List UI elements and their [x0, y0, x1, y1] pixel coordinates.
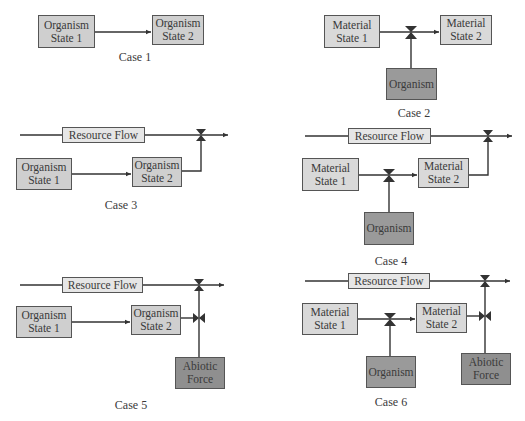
case1-organism-state-1: Organism State 1: [38, 15, 95, 48]
case5-resource-flow: Resource Flow: [62, 277, 143, 293]
case6-material-state-1: Material State 1: [302, 303, 358, 335]
case4-caption: Case 4: [375, 254, 407, 269]
case3-caption: Case 3: [105, 198, 137, 213]
case6-caption: Case 6: [375, 395, 407, 410]
case6-organism: Organism: [366, 356, 416, 388]
case4-resource-flow: Resource Flow: [348, 128, 431, 144]
case4-material-state-2: Material State 2: [418, 158, 469, 188]
case3-control-line: [182, 137, 201, 171]
case3-resource-flow: Resource Flow: [62, 127, 145, 143]
case5-caption: Case 5: [115, 398, 147, 413]
case2-organism: Organism: [386, 68, 437, 100]
ecological-flow-diagram: Organism State 1 Organism State 2 Case 1…: [0, 0, 525, 421]
case4-material-state-1: Material State 1: [302, 158, 359, 191]
case5-abiotic-force: Abiotic Force: [175, 357, 225, 389]
case5-organism-state-2: Organism State 2: [131, 305, 181, 335]
case2-material-state-1: Material State 1: [324, 15, 380, 48]
case6-abiotic-force: Abiotic Force: [461, 353, 511, 385]
case6-material-state-2: Material State 2: [416, 303, 467, 333]
case1-caption: Case 1: [119, 50, 151, 65]
case4-control-line: [469, 138, 488, 175]
case4-organism: Organism: [364, 212, 414, 245]
case6-resource-flow: Resource Flow: [348, 273, 430, 289]
case3-organism-state-2: Organism State 2: [132, 157, 182, 187]
case5-organism-state-1: Organism State 1: [16, 306, 72, 338]
case2-material-state-2: Material State 2: [440, 15, 492, 45]
connector-layer: [0, 0, 525, 421]
case1-organism-state-2: Organism State 2: [152, 15, 204, 45]
case2-caption: Case 2: [398, 106, 430, 121]
case3-organism-state-1: Organism State 1: [16, 158, 72, 190]
